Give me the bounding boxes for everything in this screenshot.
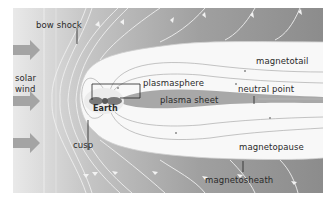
label-bow-shock: bow shock — [36, 21, 82, 30]
label-plasmasphere: plasmasphere — [143, 79, 204, 88]
label-solar-wind-2: wind — [15, 85, 36, 94]
label-magnetotail: magnetotail — [256, 57, 308, 66]
label-magnetosheath: magnetosheath — [205, 176, 273, 185]
label-solar-wind-1: solar — [15, 74, 36, 83]
label-earth: Earth — [93, 105, 118, 113]
magnetosphere-diagram: bow shock solar wind plasmasphere Earth … — [0, 0, 331, 198]
label-cusp: cusp — [73, 141, 93, 150]
label-magnetopause: magnetopause — [239, 143, 304, 152]
label-neutral-point: neutral point — [238, 85, 294, 94]
label-plasma-sheet: plasma sheet — [160, 96, 218, 105]
